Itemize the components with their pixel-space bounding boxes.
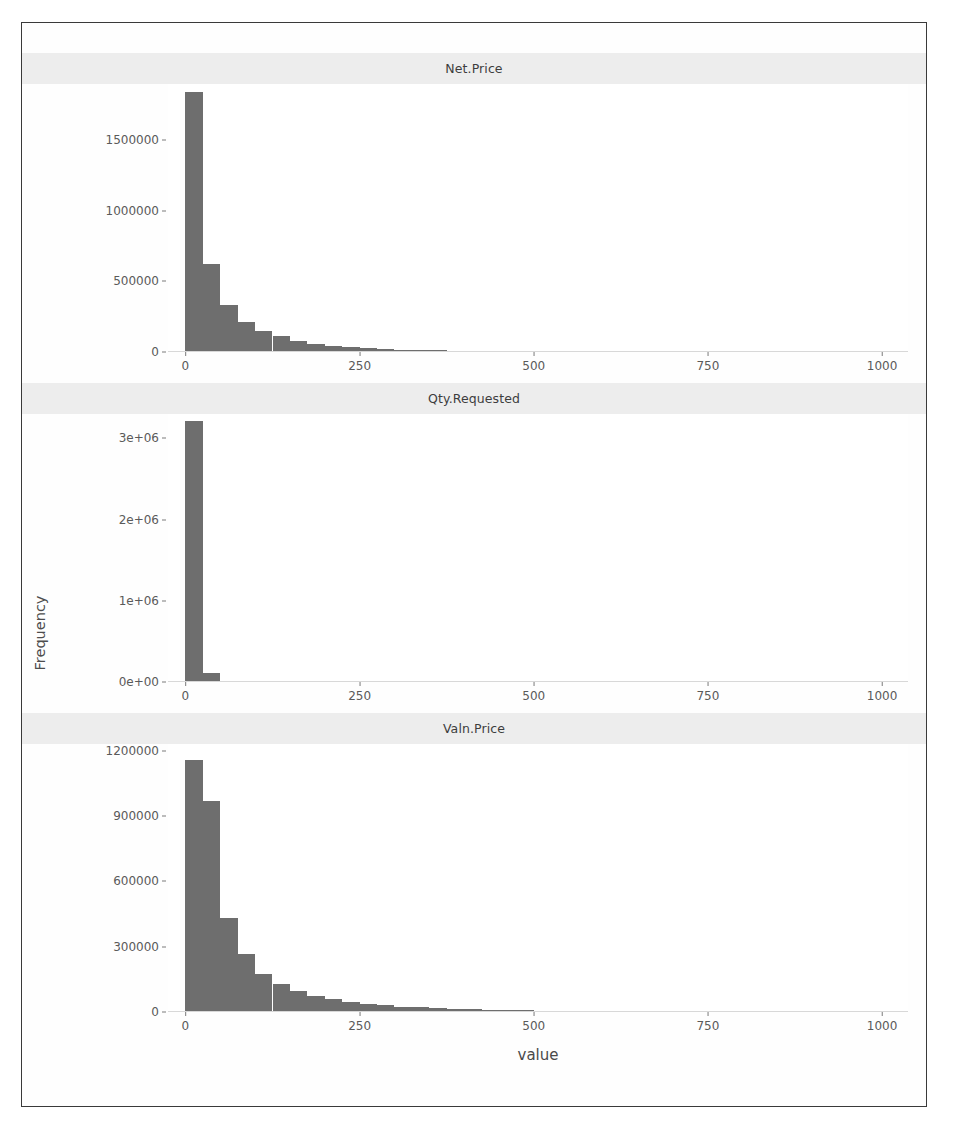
- facet-strip-label: Net.Price: [445, 61, 502, 76]
- histogram-bar: [255, 974, 272, 1012]
- y-axis-tick-label: 2e+06: [119, 513, 168, 527]
- y-axis-tick-label: 600000: [113, 874, 168, 888]
- x-axis-tick-text: 0: [182, 1019, 190, 1033]
- y-axis-tick-mark: [162, 750, 166, 751]
- plot-canvas: Frequency Net.Price 05000001000000150000…: [22, 23, 926, 1106]
- y-axis-tick-label: 900000: [113, 809, 168, 823]
- x-axis-tick-mark: [185, 682, 186, 686]
- facet-panel-net-price: Net.Price 050000010000001500000 02505007…: [22, 53, 926, 382]
- x-axis-tick-label: 500: [522, 352, 545, 373]
- x-axis-tick-mark: [882, 682, 883, 686]
- x-axis-tick-mark: [707, 682, 708, 686]
- x-axis-tick-text: 250: [348, 359, 371, 373]
- x-axis-tick-label: 500: [522, 682, 545, 703]
- x-axis-tick-label: 0: [182, 682, 190, 703]
- x-axis-tick-label: 1000: [867, 352, 898, 373]
- x-axis-tick-label: 250: [348, 352, 371, 373]
- y-axis-tick-mark: [162, 600, 166, 601]
- histogram-bar: [238, 954, 255, 1012]
- x-axis-tick-text: 750: [696, 689, 719, 703]
- y-axis-tick-label: 0: [151, 345, 168, 359]
- facet-strip-qty-requested: Qty.Requested: [22, 383, 926, 414]
- x-axis-ticks-qty-requested: 02505007501000: [168, 682, 908, 716]
- histogram-bar: [185, 760, 202, 1012]
- x-axis-tick-text: 1000: [867, 1019, 898, 1033]
- x-axis-tick-mark: [359, 1012, 360, 1016]
- histogram-bar: [220, 305, 237, 352]
- y-axis-tick-mark: [162, 140, 166, 141]
- histogram-bar: [238, 322, 255, 352]
- y-axis-tick-mark: [162, 281, 166, 282]
- y-axis-tick-mark: [162, 1012, 166, 1013]
- histogram-bar: [273, 336, 290, 352]
- facet-strip-label: Qty.Requested: [428, 391, 520, 406]
- y-axis-tick-mark: [162, 519, 166, 520]
- y-axis-tick-mark: [162, 352, 166, 353]
- x-axis-tick-label: 750: [696, 682, 719, 703]
- x-axis-tick-mark: [533, 1012, 534, 1016]
- x-axis-tick-mark: [882, 1012, 883, 1016]
- panel-plot-area-valn-price: 03000006000009000001200000: [168, 744, 908, 1012]
- x-axis-title: value: [168, 1046, 908, 1064]
- facet-panel-valn-price: Valn.Price 03000006000009000001200000 02…: [22, 713, 926, 1042]
- y-axis-tick-mark: [162, 815, 166, 816]
- panel-plot-area-qty-requested: 0e+001e+062e+063e+06: [168, 414, 908, 682]
- x-axis-tick-text: 1000: [867, 689, 898, 703]
- y-axis-tick-label: 0: [151, 1005, 168, 1019]
- x-axis-tick-text: 250: [348, 689, 371, 703]
- x-axis-tick-text: 0: [182, 359, 190, 373]
- x-axis-tick-text: 500: [522, 359, 545, 373]
- x-axis-tick-mark: [185, 352, 186, 356]
- panel-plot-area-net-price: 050000010000001500000: [168, 84, 908, 352]
- facet-panel-qty-requested: Qty.Requested 0e+001e+062e+063e+06 02505…: [22, 383, 926, 712]
- figure-frame: Frequency Net.Price 05000001000000150000…: [21, 22, 927, 1107]
- histogram-bars-qty-requested: [168, 414, 908, 682]
- x-axis-tick-text: 1000: [867, 359, 898, 373]
- histogram-bar: [273, 984, 290, 1012]
- x-axis-tick-label: 0: [182, 1012, 190, 1033]
- x-axis-tick-mark: [359, 352, 360, 356]
- x-axis-tick-label: 500: [522, 1012, 545, 1033]
- x-axis-tick-label: 1000: [867, 1012, 898, 1033]
- x-axis-tick-text: 750: [696, 359, 719, 373]
- x-axis-tick-mark: [533, 352, 534, 356]
- y-axis-tick-label: 0e+00: [119, 675, 168, 689]
- x-axis-tick-text: 750: [696, 1019, 719, 1033]
- x-axis-tick-text: 500: [522, 1019, 545, 1033]
- x-axis-tick-text: 500: [522, 689, 545, 703]
- histogram-bar: [290, 991, 307, 1012]
- x-axis-tick-label: 250: [348, 682, 371, 703]
- histogram-bars-net-price: [168, 84, 908, 352]
- histogram-bar: [203, 264, 220, 352]
- x-axis-tick-text: 250: [348, 1019, 371, 1033]
- facet-strip-net-price: Net.Price: [22, 53, 926, 84]
- histogram-bar: [185, 421, 202, 683]
- x-axis-ticks-valn-price: 02505007501000: [168, 1012, 908, 1046]
- y-axis-tick-label: 3e+06: [119, 431, 168, 445]
- facet-strip-label: Valn.Price: [443, 721, 505, 736]
- x-axis-tick-label: 0: [182, 352, 190, 373]
- x-axis-tick-label: 750: [696, 1012, 719, 1033]
- y-axis-tick-label: 1500000: [106, 133, 168, 147]
- x-axis-tick-text: 0: [182, 689, 190, 703]
- y-axis-tick-mark: [162, 210, 166, 211]
- y-axis-tick-mark: [162, 682, 166, 683]
- y-axis-tick-mark: [162, 881, 166, 882]
- x-axis-tick-mark: [185, 1012, 186, 1016]
- x-axis-tick-label: 1000: [867, 682, 898, 703]
- histogram-bar: [220, 918, 237, 1012]
- x-axis-tick-mark: [882, 352, 883, 356]
- y-axis-tick-label: 1e+06: [119, 594, 168, 608]
- x-axis-tick-mark: [359, 682, 360, 686]
- y-axis-tick-label: 1000000: [106, 204, 168, 218]
- histogram-bars-valn-price: [168, 744, 908, 1012]
- y-axis-tick-label: 500000: [113, 274, 168, 288]
- x-axis-tick-mark: [707, 352, 708, 356]
- x-axis-ticks-net-price: 02505007501000: [168, 352, 908, 386]
- histogram-bar: [307, 996, 324, 1012]
- x-axis-tick-label: 750: [696, 352, 719, 373]
- x-axis-tick-label: 250: [348, 1012, 371, 1033]
- y-axis-tick-mark: [162, 438, 166, 439]
- y-axis-tick-label: 1200000: [106, 744, 168, 758]
- x-axis-tick-mark: [707, 1012, 708, 1016]
